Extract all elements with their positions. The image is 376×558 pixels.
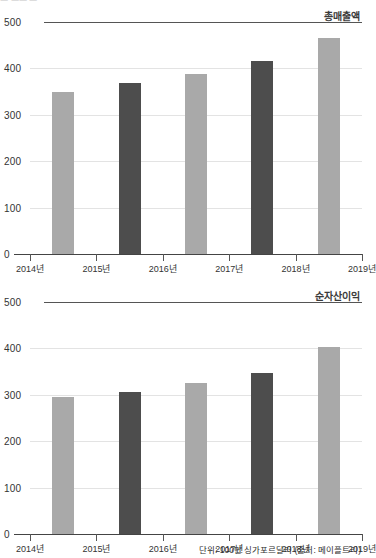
x-axis-tick <box>30 254 31 261</box>
y-axis-label: 400 <box>4 343 21 354</box>
x-axis-tick <box>296 254 297 261</box>
x-axis-tick <box>96 534 97 541</box>
y-axis-label: 100 <box>4 482 21 493</box>
chart-net-asset-income: 50040030020010002014년2015년2016년2017년2018… <box>0 288 366 546</box>
x-axis-label: 2016년 <box>149 262 177 275</box>
bar <box>251 373 273 534</box>
plot-area: 50040030020010002014년2015년2016년2017년2018… <box>30 22 362 254</box>
series-label: 총매출액 <box>324 8 360 23</box>
y-axis-label: 200 <box>4 156 21 167</box>
x-axis-label: 2014년 <box>16 262 44 275</box>
x-axis-tick <box>362 534 363 541</box>
bar <box>119 392 141 534</box>
y-axis-label: 300 <box>4 109 21 120</box>
x-axis-label: 2017년 <box>215 262 243 275</box>
x-axis-tick <box>96 254 97 261</box>
bar <box>119 83 141 254</box>
x-axis-tick <box>229 254 230 261</box>
bar <box>318 38 340 254</box>
y-axis-label: 200 <box>4 436 21 447</box>
footnote: 단위: 100만 싱가포르달러 (출처: 메이플트리) <box>199 543 361 555</box>
x-axis-label: 2014년 <box>16 542 44 555</box>
bar <box>185 74 207 254</box>
series-label: 순자산이익 <box>315 288 360 303</box>
y-axis-label: 0 <box>4 249 10 260</box>
x-axis-tick <box>229 534 230 541</box>
y-axis-label: 100 <box>4 202 21 213</box>
y-axis-label: 0 <box>4 529 10 540</box>
bar <box>52 92 74 254</box>
y-axis-label: 500 <box>4 297 21 308</box>
axis-cap-rule <box>44 22 362 23</box>
y-axis-label: 300 <box>4 389 21 400</box>
plot-area: 50040030020010002014년2015년2016년2017년2018… <box>30 302 362 534</box>
y-axis-label: 500 <box>4 17 21 28</box>
chart-total-revenue: 50040030020010002014년2015년2016년2017년2018… <box>0 8 366 283</box>
x-axis-tick <box>163 254 164 261</box>
gridline <box>30 348 362 349</box>
x-axis-label: 2016년 <box>149 542 177 555</box>
x-axis-label: 2018년 <box>282 262 310 275</box>
bar <box>251 61 273 254</box>
y-axis-label: 400 <box>4 63 21 74</box>
bar <box>318 347 340 534</box>
x-axis-line <box>14 254 362 255</box>
x-axis-label: 2019년 <box>348 262 376 275</box>
bar <box>52 397 74 534</box>
clipped-header-artifact: ㅡ ㅡㅡ ㅡ <box>0 0 366 7</box>
x-axis-label: 2015년 <box>82 262 110 275</box>
x-axis-tick <box>163 534 164 541</box>
gridline <box>30 68 362 69</box>
clipped-header-text: ㅡ ㅡㅡ ㅡ <box>0 0 37 7</box>
x-axis-tick <box>296 534 297 541</box>
x-axis-tick <box>30 534 31 541</box>
x-axis-tick <box>362 254 363 261</box>
x-axis-label: 2015년 <box>82 542 110 555</box>
x-axis-line <box>14 534 362 535</box>
bar <box>185 383 207 534</box>
